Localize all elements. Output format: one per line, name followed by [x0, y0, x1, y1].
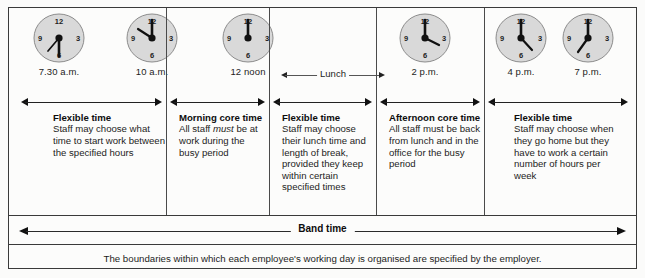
- divider-3-top: [376, 8, 377, 97]
- lunch-label: Lunch: [317, 68, 349, 79]
- arrow-bar: [25, 102, 158, 103]
- arrow-bar: [174, 102, 261, 103]
- divider-4-top: [484, 8, 485, 97]
- clock-label-7pm: 7 p.m.: [542, 66, 634, 77]
- svg-text:6: 6: [150, 51, 154, 60]
- arrow-bar: [492, 102, 624, 103]
- panel-title: Flexible time: [514, 112, 618, 123]
- svg-text:9: 9: [404, 34, 408, 43]
- svg-text:3: 3: [169, 34, 173, 43]
- arrow-head-right-icon: [258, 98, 265, 106]
- flexible-time-diagram: 12 3 6 9 7.30 a.m. 12 3: [0, 0, 645, 278]
- arrow-bar: [384, 102, 476, 103]
- diagram-frame: 12 3 6 9 7.30 a.m. 12 3: [8, 7, 637, 269]
- span-arrow-flexible-lunch: [273, 98, 372, 107]
- svg-text:9: 9: [500, 34, 504, 43]
- svg-text:6: 6: [586, 51, 590, 60]
- clock-cell-7pm: 12 3 6 9 7 p.m.: [542, 12, 634, 77]
- svg-text:9: 9: [567, 34, 571, 43]
- panel-title: Morning core time: [179, 112, 267, 123]
- svg-text:9: 9: [131, 34, 135, 43]
- divider-2-mid: [269, 97, 270, 215]
- clock-cell-730am: 12 3 6 9 7.30 a.m.: [13, 12, 105, 77]
- arrow-head-right-icon: [621, 98, 628, 106]
- divider-3-mid: [376, 97, 377, 215]
- divider-2-top: [269, 8, 270, 97]
- svg-text:6: 6: [519, 51, 523, 60]
- divider-1-top: [166, 8, 167, 97]
- panel-body-emphasis: must: [213, 123, 234, 134]
- svg-text:3: 3: [442, 34, 446, 43]
- panel-title: Flexible time: [282, 112, 374, 123]
- clock-label-2pm: 2 p.m.: [379, 66, 471, 77]
- panel-body: Staff may choose when they go home but t…: [514, 123, 618, 181]
- panel-body: Staff may choose what time to start work…: [53, 123, 165, 158]
- band-time-label: Band time: [290, 223, 354, 234]
- svg-text:9: 9: [38, 34, 42, 43]
- span-arrow-flexible-evening: [488, 98, 628, 107]
- clock-10am: 12 3 6 9: [123, 12, 181, 64]
- panel-title: Flexible time: [53, 112, 165, 123]
- arrow-head-right-icon: [365, 98, 372, 106]
- panel-body: Staff may choose their lunch time and le…: [282, 123, 374, 193]
- clock-cell-10am: 12 3 6 9 10 a.m.: [106, 12, 198, 77]
- svg-text:3: 3: [605, 34, 609, 43]
- panel-morning-core: Morning core time All staff must be at w…: [179, 112, 267, 158]
- clock-row: 12 3 6 9 7.30 a.m. 12 3: [9, 8, 636, 97]
- clock-cell-2pm: 12 3 6 9 2 p.m.: [379, 12, 471, 77]
- panel-flexible-morning: Flexible time Staff may choose what time…: [53, 112, 165, 158]
- clock-2pm: 12 3 6 9: [396, 12, 454, 64]
- arrow-head-right-icon: [473, 98, 480, 106]
- divider-1-mid: [166, 97, 167, 215]
- svg-text:3: 3: [76, 34, 80, 43]
- panel-body-pre: All staff: [179, 123, 213, 134]
- panel-title: Afternoon core time: [389, 112, 483, 123]
- footer-separator-top: [9, 244, 636, 245]
- span-arrow-morning-core: [170, 98, 265, 107]
- svg-text:6: 6: [246, 51, 250, 60]
- panel-flexible-evening: Flexible time Staff may choose when they…: [514, 112, 618, 181]
- clock-label-10am: 10 a.m.: [106, 66, 198, 77]
- arrow-bar: [277, 102, 368, 103]
- lunch-span: Lunch: [281, 68, 385, 86]
- clock-label-730am: 7.30 a.m.: [13, 66, 105, 77]
- arrow-bar-right: [341, 231, 619, 232]
- span-arrow-afternoon-core: [380, 98, 480, 107]
- clock-730am: 12 3 6 9: [30, 12, 88, 64]
- panel-flexible-lunch: Flexible time Staff may choose their lun…: [282, 112, 374, 193]
- arrow-bar-left: [26, 231, 304, 232]
- footer-note: The boundaries within which each employe…: [9, 253, 636, 264]
- span-arrow-flexible-morning: [21, 98, 162, 107]
- panel-body: All staff must be at work during the bus…: [179, 123, 267, 158]
- panel-afternoon-core: Afternoon core time All staff must be ba…: [389, 112, 483, 170]
- arrow-head-right-icon: [155, 98, 162, 106]
- panel-body: All staff must be back from lunch and in…: [389, 123, 483, 169]
- divider-4-mid: [484, 97, 485, 215]
- arrow-head-right-icon: [379, 72, 385, 78]
- svg-text:6: 6: [423, 51, 427, 60]
- band-time-row: Band time: [9, 216, 636, 244]
- arrow-head-right-icon: [617, 227, 626, 235]
- clock-7pm: 12 3 6 9: [559, 12, 617, 64]
- svg-text:9: 9: [227, 34, 231, 43]
- svg-text:12: 12: [55, 17, 63, 26]
